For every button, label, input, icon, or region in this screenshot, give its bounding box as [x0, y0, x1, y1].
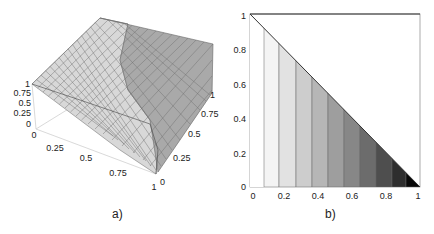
svg-text:1: 1 — [415, 191, 420, 201]
svg-text:0: 0 — [250, 191, 255, 201]
svg-text:0.5: 0.5 — [18, 98, 31, 108]
svg-text:0: 0 — [31, 130, 36, 140]
svg-text:0.25: 0.25 — [173, 153, 191, 163]
svg-text:0.6: 0.6 — [233, 80, 246, 90]
svg-text:0.75: 0.75 — [109, 168, 127, 178]
svg-text:0.25: 0.25 — [46, 143, 64, 153]
svg-text:0.5: 0.5 — [80, 153, 93, 163]
z-axis-ticks: 1 0.75 0.5 0.25 0 — [13, 79, 31, 129]
svg-text:0.8: 0.8 — [233, 45, 246, 55]
panel-b-caption: b) — [325, 207, 336, 221]
figure-canvas: 1 0.75 0.5 0.25 0 0 0.25 0.5 0.75 1 0 0.… — [0, 0, 434, 234]
svg-text:0.75: 0.75 — [13, 88, 31, 98]
panel-b-contour-plot: 1 0.8 0.6 0.4 0.2 0 0 0.2 0.4 0.6 0.8 1 — [233, 11, 420, 201]
panel-a-caption: a) — [112, 207, 123, 221]
svg-text:0.6: 0.6 — [346, 191, 359, 201]
svg-text:0.4: 0.4 — [312, 191, 325, 201]
svg-text:1: 1 — [210, 90, 215, 100]
svg-text:0.2: 0.2 — [278, 191, 291, 201]
svg-text:0.75: 0.75 — [201, 109, 219, 119]
svg-text:1: 1 — [151, 182, 156, 192]
svg-text:0.4: 0.4 — [233, 114, 246, 124]
b-x-axis-ticks: 0 0.2 0.4 0.6 0.8 1 — [250, 191, 420, 201]
svg-text:0: 0 — [26, 119, 31, 129]
svg-text:1: 1 — [241, 11, 246, 21]
svg-text:0.25: 0.25 — [13, 108, 31, 118]
panel-a-surface-plot: 1 0.75 0.5 0.25 0 0 0.25 0.5 0.75 1 0 0.… — [13, 18, 218, 192]
b-y-axis-ticks: 1 0.8 0.6 0.4 0.2 0 — [233, 11, 246, 192]
svg-text:0.5: 0.5 — [188, 129, 201, 139]
svg-text:0: 0 — [160, 177, 165, 187]
svg-text:0: 0 — [241, 182, 246, 192]
svg-text:0.8: 0.8 — [380, 191, 393, 201]
svg-text:0.2: 0.2 — [233, 149, 246, 159]
